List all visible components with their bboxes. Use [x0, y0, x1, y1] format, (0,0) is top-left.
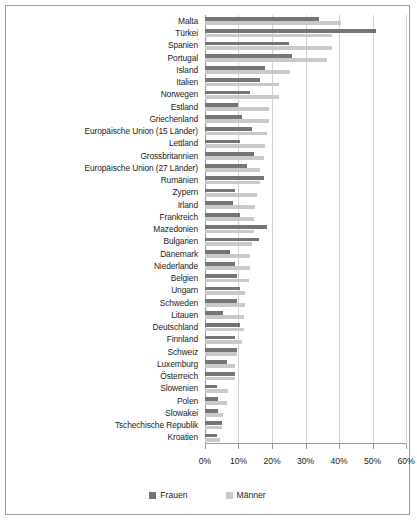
- bar-maenner: [205, 377, 235, 381]
- bars-region: [205, 15, 406, 444]
- bar-frauen: [205, 164, 247, 168]
- category-label: Finnland: [14, 334, 203, 346]
- bar-row: [205, 358, 406, 370]
- x-axis-ticks: [205, 444, 406, 451]
- category-label: Estland: [14, 101, 203, 113]
- bar-maenner: [205, 426, 222, 430]
- bar-maenner: [205, 144, 265, 148]
- bar-row: [205, 260, 406, 272]
- category-label: Ungarn: [14, 285, 203, 297]
- bar-maenner: [205, 58, 327, 62]
- category-label: Grossbritannien: [14, 150, 203, 162]
- category-label: Irland: [14, 199, 203, 211]
- bar-row: [205, 407, 406, 419]
- bar-frauen: [205, 201, 233, 205]
- bar-frauen: [205, 274, 237, 278]
- bar-row: [205, 346, 406, 358]
- legend-item[interactable]: Männer: [226, 490, 266, 500]
- bar-row: [205, 309, 406, 321]
- category-label: Polen: [14, 395, 203, 407]
- bar-frauen: [205, 360, 227, 364]
- bar-frauen: [205, 54, 292, 58]
- bar-maenner: [205, 328, 244, 332]
- x-axis-tick-label: 20%: [263, 456, 280, 466]
- bar-maenner: [205, 181, 260, 185]
- category-label: Europäische Union (15 Länder): [14, 125, 203, 137]
- category-label: Deutschland: [14, 321, 203, 333]
- bar-maenner: [205, 340, 242, 344]
- category-label: Island: [14, 64, 203, 76]
- bar-row: [205, 432, 406, 444]
- category-label: Spanien: [14, 40, 203, 52]
- bar-maenner: [205, 107, 269, 111]
- x-axis-tick-label: 30%: [297, 456, 314, 466]
- bar-row: [205, 101, 406, 113]
- x-axis-tick-label: 10%: [230, 456, 247, 466]
- x-axis-tick: [339, 444, 340, 449]
- bar-row: [205, 52, 406, 64]
- gridline: [406, 15, 407, 444]
- bar-frauen: [205, 115, 242, 119]
- category-label: Mazedonien: [14, 223, 203, 235]
- bar-maenner: [205, 242, 252, 246]
- bar-frauen: [205, 17, 319, 21]
- x-axis-tick: [306, 444, 307, 449]
- bar-row: [205, 370, 406, 382]
- bar-maenner: [205, 389, 228, 393]
- bar-maenner: [205, 291, 245, 295]
- category-label: Frankreich: [14, 211, 203, 223]
- bar-row: [205, 76, 406, 88]
- bar-row: [205, 27, 406, 39]
- category-label: Rumänien: [14, 174, 203, 186]
- bar-maenner: [205, 21, 341, 25]
- bar-maenner: [205, 168, 260, 172]
- x-axis-tick: [205, 444, 206, 449]
- bar-row: [205, 138, 406, 150]
- category-label: Litauen: [14, 309, 203, 321]
- category-label: Niederlande: [14, 260, 203, 272]
- bar-frauen: [205, 91, 250, 95]
- category-axis-labels: MaltaTürkeiSpanienPortugalIslandItalienN…: [14, 15, 203, 444]
- category-label: Lettland: [14, 138, 203, 150]
- bar-frauen: [205, 336, 235, 340]
- bar-frauen: [205, 127, 252, 131]
- bar-maenner: [205, 413, 223, 417]
- bar-frauen: [205, 323, 240, 327]
- bar-maenner: [205, 70, 290, 74]
- bar-frauen: [205, 262, 235, 266]
- category-label: Dänemark: [14, 248, 203, 260]
- chart-plot-area: MaltaTürkeiSpanienPortugalIslandItalienN…: [6, 6, 409, 514]
- bar-row: [205, 162, 406, 174]
- bar-maenner: [205, 132, 267, 136]
- bar-frauen: [205, 176, 264, 180]
- bar-maenner: [205, 303, 245, 307]
- bar-row: [205, 285, 406, 297]
- category-label: Malta: [14, 15, 203, 27]
- x-axis-tick: [406, 444, 407, 449]
- bar-frauen: [205, 42, 289, 46]
- bar-row: [205, 15, 406, 27]
- bar-frauen: [205, 29, 376, 33]
- bar-row: [205, 395, 406, 407]
- bar-row: [205, 40, 406, 52]
- bar-frauen: [205, 385, 217, 389]
- bar-maenner: [205, 95, 279, 99]
- x-axis-tick: [373, 444, 374, 449]
- bar-row: [205, 223, 406, 235]
- bar-frauen: [205, 311, 223, 315]
- category-label: Slowakei: [14, 407, 203, 419]
- chart-frame: MaltaTürkeiSpanienPortugalIslandItalienN…: [5, 5, 410, 515]
- bar-frauen: [205, 66, 265, 70]
- legend-label: Männer: [237, 490, 266, 500]
- category-label: Türkei: [14, 27, 203, 39]
- bar-frauen: [205, 225, 267, 229]
- bar-row: [205, 321, 406, 333]
- bar-maenner: [205, 193, 257, 197]
- x-axis-tick: [238, 444, 239, 449]
- bar-maenner: [205, 279, 249, 283]
- bar-maenner: [205, 119, 269, 123]
- bar-frauen: [205, 250, 230, 254]
- legend-item[interactable]: Frauen: [149, 490, 187, 500]
- bar-row: [205, 334, 406, 346]
- category-label: Slowenien: [14, 383, 203, 395]
